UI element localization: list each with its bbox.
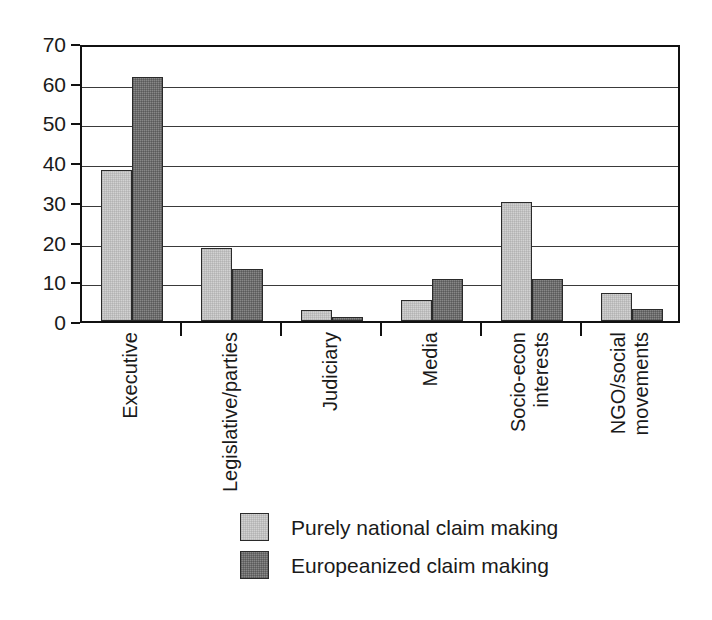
x-axis-category-label: Executive	[82, 332, 178, 482]
legend-label: Europeanized claim making	[291, 555, 549, 576]
bar	[332, 317, 363, 321]
bar	[401, 300, 432, 321]
bar	[301, 310, 332, 321]
bar-group	[101, 47, 163, 321]
bar-group	[301, 47, 363, 321]
y-axis-tick	[71, 44, 80, 46]
x-axis-category-label: Legislative/parties	[182, 332, 278, 482]
bar	[501, 202, 532, 321]
y-axis-tick-label: 0	[22, 312, 66, 333]
y-axis-tick	[71, 243, 80, 245]
x-axis-category-line: Socio-econ	[507, 332, 530, 432]
x-axis-category-line: Judiciary	[319, 332, 342, 411]
x-axis-category-line: interests	[530, 332, 553, 432]
chart-legend: Purely national claim makingEuropeanized…	[240, 508, 558, 584]
legend-item: Purely national claim making	[240, 508, 558, 546]
legend-label: Purely national claim making	[291, 517, 558, 538]
x-axis-category-label: Socio-econinterests	[482, 332, 578, 482]
bar	[632, 309, 663, 321]
bars-layer	[82, 47, 678, 321]
y-axis-labels: 010203040506070	[0, 0, 66, 620]
light-gray-swatch	[240, 513, 269, 541]
bar	[601, 293, 632, 321]
y-axis-tick-label: 60	[22, 74, 66, 95]
y-axis-tick	[71, 163, 80, 165]
x-axis-category-line: NGO/social	[607, 332, 630, 435]
y-axis-tick-label: 30	[22, 193, 66, 214]
bar	[201, 248, 232, 321]
bar	[432, 279, 463, 321]
bar	[101, 170, 132, 321]
x-axis-category-line: Legislative/parties	[219, 332, 242, 492]
bar-group	[501, 47, 563, 321]
y-axis-tick-label: 10	[22, 272, 66, 293]
legend-item: Europeanized claim making	[240, 546, 558, 584]
bar-group	[601, 47, 663, 321]
y-axis-tick-label: 70	[22, 34, 66, 55]
x-axis-category-label: Judiciary	[282, 332, 378, 482]
y-axis-tick-label: 20	[22, 233, 66, 254]
bar	[132, 77, 163, 321]
bar-group	[201, 47, 263, 321]
bar-chart-figure: 010203040506070 ExecutiveLegislative/par…	[0, 0, 712, 620]
y-axis-tick	[71, 282, 80, 284]
x-axis-category-label: NGO/socialmovements	[582, 332, 678, 482]
y-axis-tick-label: 40	[22, 153, 66, 174]
y-axis-tick	[71, 203, 80, 205]
y-axis-tick-label: 50	[22, 113, 66, 134]
bar	[232, 269, 263, 321]
bar-group	[401, 47, 463, 321]
x-axis-category-line: Media	[419, 332, 442, 386]
plot-area	[80, 45, 680, 323]
y-axis-tick	[71, 84, 80, 86]
bar	[532, 279, 563, 321]
x-axis-category-line: Executive	[119, 332, 142, 419]
x-axis-category-label: Media	[382, 332, 478, 482]
dark-gray-swatch	[240, 551, 269, 579]
x-axis-category-line: movements	[630, 332, 653, 435]
y-axis-tick	[71, 123, 80, 125]
y-axis-tick	[71, 322, 80, 324]
